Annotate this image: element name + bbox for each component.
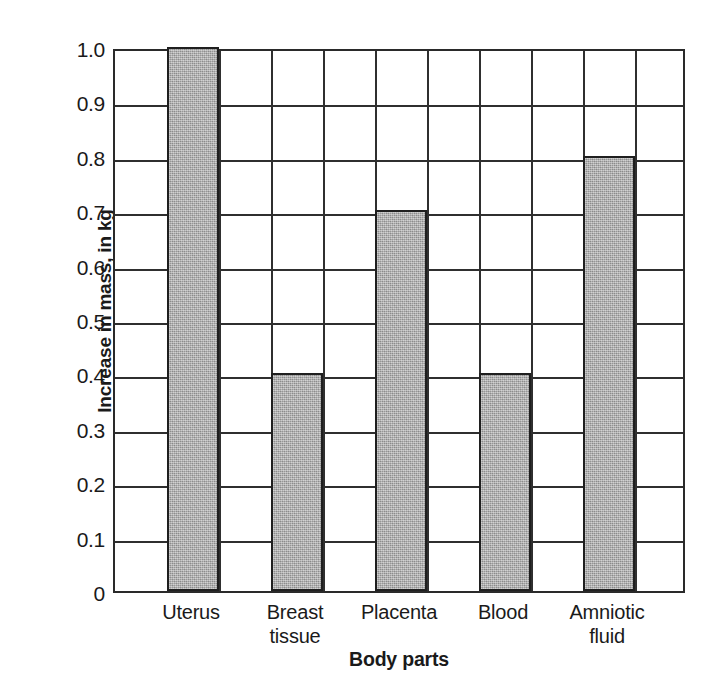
bars-group <box>115 51 683 591</box>
y-tick-label: 0.1 <box>35 528 105 549</box>
y-tick-label: 0.8 <box>35 147 105 168</box>
bar-amniotic-fluid <box>583 156 635 591</box>
bar-uterus <box>167 47 219 591</box>
bar-blood <box>479 373 531 591</box>
x-tick-label-amniotic-fluid: Amniotic fluid <box>569 600 644 649</box>
y-tick-label: 0.5 <box>35 311 105 332</box>
x-tick-label-placenta: Placenta <box>361 600 437 624</box>
x-tick-label-blood: Blood <box>478 600 528 624</box>
y-tick-label: 0.6 <box>35 256 105 277</box>
bar-placenta <box>375 210 427 591</box>
x-tick-label-uterus: Uterus <box>162 600 220 624</box>
bar-breast-tissue <box>271 373 323 591</box>
x-axis-title: Body parts <box>113 648 685 671</box>
y-tick-label: 0 <box>35 583 105 604</box>
x-tick-label-breast-tissue: Breast tissue <box>267 600 324 649</box>
y-axis-tick-labels: 00.10.20.30.40.50.60.70.80.91.0 <box>32 49 105 593</box>
y-tick-label: 0.9 <box>35 93 105 114</box>
y-tick-label: 0.3 <box>35 419 105 440</box>
y-tick-label: 1.0 <box>35 39 105 60</box>
y-tick-label: 0.7 <box>35 202 105 223</box>
bar-chart-figure: Increase in mass, in kg 00.10.20.30.40.5… <box>0 0 718 700</box>
y-tick-label: 0.2 <box>35 474 105 495</box>
plot-area <box>113 49 685 593</box>
y-tick-label: 0.4 <box>35 365 105 386</box>
